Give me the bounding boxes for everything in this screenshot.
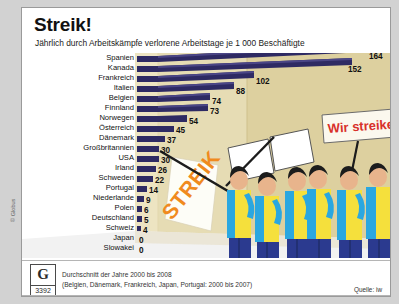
wir-streiken-placard: Wir streiken bbox=[322, 109, 390, 143]
value-schweden: 22 bbox=[155, 176, 164, 185]
value-schweiz: 4 bbox=[143, 226, 148, 235]
label-grossbritannien: Großbritannien bbox=[83, 143, 134, 152]
value-usa: 30 bbox=[161, 156, 170, 165]
striker-6 bbox=[366, 163, 390, 258]
label-portugal: Portugal bbox=[106, 183, 134, 192]
label-belgien: Belgien bbox=[109, 93, 134, 102]
value-italien: 88 bbox=[236, 87, 245, 96]
value-finnland: 73 bbox=[210, 107, 219, 116]
infographic-card: Streik! Jährlich durch Arbeitskämpfe ver… bbox=[22, 8, 390, 296]
value-irland: 26 bbox=[158, 166, 167, 175]
bar-schweden bbox=[137, 176, 153, 182]
footer-divider bbox=[22, 260, 390, 261]
category-labels: Spanien Kanada Frankreich Italien Belgie… bbox=[22, 53, 137, 258]
value-norwegen: 54 bbox=[189, 117, 198, 126]
globus-logo: G 3392 bbox=[30, 264, 56, 296]
label-niederlande: Niederlande bbox=[93, 193, 134, 202]
label-spanien: Spanien bbox=[106, 53, 134, 62]
bar-irland bbox=[137, 166, 156, 172]
label-italien: Italien bbox=[114, 83, 134, 92]
label-oesterreich: Österreich bbox=[99, 123, 134, 132]
label-kanada: Kanada bbox=[108, 63, 134, 72]
label-deutschland: Deutschland bbox=[92, 213, 134, 222]
footnote-line-1: Durchschnitt der Jahre 2000 bis 2008 bbox=[62, 270, 172, 280]
footnote-line-2: (Belgien, Dänemark, Frankreich, Japan, P… bbox=[62, 280, 252, 290]
globus-logo-number: 3392 bbox=[31, 285, 55, 295]
value-frankreich: 102 bbox=[256, 77, 270, 86]
bar-norwegen bbox=[137, 115, 187, 122]
infographic-frame: Streik! Jährlich durch Arbeitskämpfe ver… bbox=[0, 0, 399, 304]
bar-niederlande bbox=[137, 196, 144, 202]
value-niederlande: 9 bbox=[146, 196, 151, 205]
label-irland: Irland bbox=[115, 163, 134, 172]
label-polen: Polen bbox=[115, 203, 134, 212]
label-schweiz: Schweiz bbox=[106, 223, 134, 232]
label-finnland: Finnland bbox=[105, 103, 134, 112]
value-kanada: 152 bbox=[348, 65, 362, 74]
bar-oesterreich bbox=[137, 126, 174, 132]
globus-logo-letter: G bbox=[31, 266, 55, 282]
footer-bottom-rule bbox=[22, 295, 390, 296]
bar-portugal bbox=[137, 186, 147, 192]
page-subtitle: Jährlich durch Arbeitskämpfe verlorene A… bbox=[35, 38, 305, 48]
label-japan: Japan bbox=[113, 233, 134, 242]
label-frankreich: Frankreich bbox=[98, 73, 134, 82]
value-belgien: 74 bbox=[212, 97, 221, 106]
value-portugal: 14 bbox=[149, 186, 158, 195]
value-slowakei: 0 bbox=[139, 246, 144, 255]
bar-deutschland bbox=[137, 216, 142, 222]
label-daenemark: Dänemark bbox=[99, 133, 134, 142]
copyright-vertical: © Globus bbox=[10, 162, 16, 222]
bar-grossbritannien bbox=[137, 146, 159, 152]
value-deutschland: 5 bbox=[144, 216, 149, 225]
label-usa: USA bbox=[118, 153, 134, 162]
label-norwegen: Norwegen bbox=[99, 113, 134, 122]
value-japan: 0 bbox=[139, 236, 144, 245]
label-schweden: Schweden bbox=[99, 173, 134, 182]
label-slowakei: Slowakei bbox=[104, 243, 134, 252]
value-grossbritannien: 30 bbox=[161, 146, 170, 155]
value-oesterreich: 45 bbox=[176, 126, 185, 135]
value-polen: 6 bbox=[144, 206, 149, 215]
source-credit: Quelle: iw bbox=[354, 286, 382, 293]
bar-daenemark bbox=[137, 136, 165, 142]
value-spanien: 164 bbox=[369, 52, 383, 61]
value-daenemark: 37 bbox=[167, 136, 176, 145]
page-title: Streik! bbox=[34, 14, 92, 36]
bar-polen bbox=[137, 206, 142, 212]
bar-usa bbox=[137, 156, 159, 162]
